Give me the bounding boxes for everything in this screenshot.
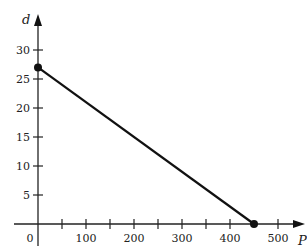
svg-text:5: 5 — [23, 189, 30, 202]
end-point-marker — [250, 220, 258, 228]
svg-text:100: 100 — [76, 232, 97, 245]
svg-text:400: 400 — [220, 232, 241, 245]
y-tick-labels: 5 10 15 20 25 30 — [16, 44, 30, 202]
chart: d P 5 10 15 20 25 30 0 100 200 300 400 — [0, 0, 307, 249]
x-axis-arrow-icon — [293, 220, 305, 228]
svg-text:10: 10 — [16, 160, 30, 173]
x-tick-labels: 0 100 200 300 400 500 — [27, 232, 289, 245]
svg-text:300: 300 — [172, 232, 193, 245]
svg-text:20: 20 — [16, 102, 30, 115]
start-point-marker — [34, 63, 42, 71]
svg-text:15: 15 — [16, 131, 30, 144]
svg-text:500: 500 — [268, 232, 289, 245]
svg-text:30: 30 — [16, 44, 30, 57]
svg-text:25: 25 — [16, 73, 30, 86]
x-axis-label: P — [297, 233, 307, 248]
data-line — [38, 67, 254, 224]
svg-text:0: 0 — [27, 232, 34, 245]
y-axis-arrow-icon — [34, 14, 42, 26]
svg-text:200: 200 — [124, 232, 145, 245]
y-axis-label: d — [22, 12, 30, 27]
